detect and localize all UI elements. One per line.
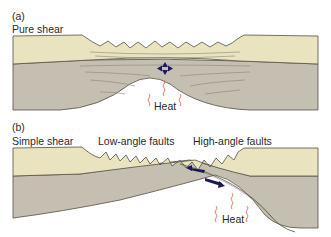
panel-b-heat-label: Heat <box>222 213 244 225</box>
panel-b-tag: (b) <box>12 121 25 133</box>
panel-b-cross-section <box>13 147 318 232</box>
rift-diagram <box>0 0 331 237</box>
high-angle-faults-label: High-angle faults <box>193 135 272 147</box>
low-angle-faults-label: Low-angle faults <box>98 135 174 147</box>
panel-a-title: Pure shear <box>12 23 63 35</box>
panel-b-title: Simple shear <box>12 135 73 147</box>
panel-a-cross-section <box>13 35 318 110</box>
panel-a-heat-label: Heat <box>154 100 176 112</box>
panel-a-tag: (a) <box>12 10 25 22</box>
